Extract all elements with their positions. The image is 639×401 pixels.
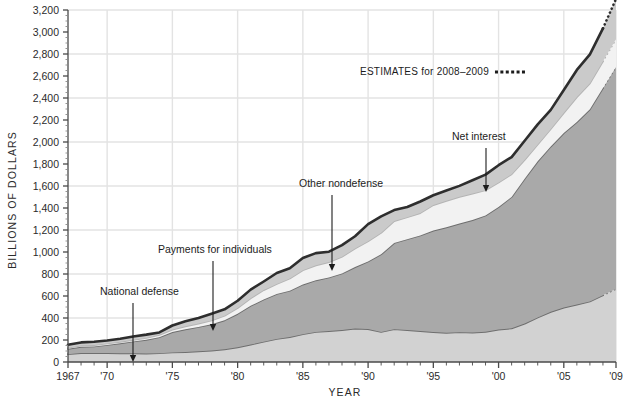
y-tick-label: 800 [41,268,59,280]
estimates-dot [506,71,509,74]
y-tick-label: 1,200 [33,224,59,236]
x-tick-label: '90 [361,370,375,382]
y-axis-title: BILLIONS OF DOLLARS [6,131,18,269]
y-tick-label: 1,400 [33,202,59,214]
estimates-dot [522,71,525,74]
x-tick-label: '00 [492,370,506,382]
annotation-label: Payments for individuals [158,243,272,255]
y-tick-label: 1,000 [33,246,59,258]
chart-canvas: 02004006008001,0001,2001,4001,6001,8002,… [0,0,639,401]
y-tick-label: 1,600 [33,180,59,192]
y-tick-label: 600 [41,290,59,302]
y-tick-label: 3,200 [33,4,59,16]
annotation-label: National defense [100,285,179,297]
y-tick-label: 2,200 [33,114,59,126]
x-tick-label: '05 [557,370,571,382]
x-tick-label: '75 [166,370,180,382]
federal-outlays-area-chart: 02004006008001,0001,2001,4001,6001,8002,… [0,0,639,401]
y-tick-label: 400 [41,312,59,324]
x-tick-label: '95 [426,370,440,382]
y-tick-label: 0 [53,356,59,368]
annotation-label: Other nondefense [299,177,383,189]
y-tick-label: 3,000 [33,26,59,38]
x-tick-label: '80 [231,370,245,382]
x-tick-label: '70 [100,370,114,382]
y-tick-label: 2,000 [33,136,59,148]
y-tick-label: 200 [41,334,59,346]
estimates-dot [495,71,498,74]
y-tick-label: 2,400 [33,92,59,104]
x-tick-label: '09 [609,370,623,382]
y-tick-label: 2,800 [33,48,59,60]
x-tick-label: '85 [296,370,310,382]
estimates-dot [517,71,520,74]
estimates-note: ESTIMATES for 2008–2009 [360,66,489,77]
estimates-dot [511,71,514,74]
y-tick-label: 2,600 [33,70,59,82]
x-axis-title: YEAR [329,386,362,398]
y-tick-label: 1,800 [33,158,59,170]
estimates-dot [500,71,503,74]
annotation-label: Net interest [452,130,506,142]
x-tick-label: 1967 [56,370,80,382]
